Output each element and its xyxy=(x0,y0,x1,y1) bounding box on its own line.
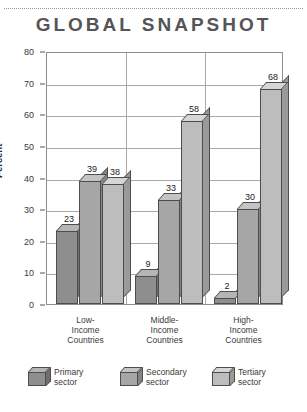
gridline xyxy=(47,148,282,149)
category-label-line: Countries xyxy=(225,335,261,345)
category-label-line: Middle- xyxy=(146,315,182,325)
legend-swatch-front xyxy=(212,372,230,386)
category-label-line: Low- xyxy=(67,315,103,325)
bar-front-face xyxy=(135,276,157,304)
legend-label-line2: sector xyxy=(238,377,266,387)
plot-area xyxy=(46,52,283,305)
category-label-line: Countries xyxy=(67,335,103,345)
bar xyxy=(135,276,157,304)
y-tick-mark xyxy=(40,210,45,211)
bar-side-face xyxy=(282,75,289,297)
y-tick-mark xyxy=(40,52,45,53)
y-tick-label: 50 xyxy=(14,142,34,152)
bar xyxy=(181,121,203,304)
y-tick-label: 0 xyxy=(14,300,34,310)
y-tick-mark xyxy=(40,178,45,179)
category-label: Low-IncomeCountries xyxy=(67,315,103,345)
legend-swatch-icon xyxy=(212,367,234,386)
legend-item: Tertiarysector xyxy=(212,364,266,387)
y-tick-label: 10 xyxy=(14,268,34,278)
bar-front-face xyxy=(237,209,259,304)
bar-side-face xyxy=(124,170,131,297)
y-tick-mark xyxy=(40,241,45,242)
legend-swatch-icon xyxy=(28,367,50,386)
category-label-line: Income xyxy=(225,325,261,335)
bar xyxy=(260,89,282,304)
y-tick-label: 30 xyxy=(14,205,34,215)
bar xyxy=(79,181,101,304)
bar xyxy=(102,184,124,304)
bar-value-label: 33 xyxy=(165,183,177,193)
bar-front-face xyxy=(214,298,236,304)
page-title: GLOBAL SNAPSHOT xyxy=(0,14,307,36)
legend-label-line2: sector xyxy=(54,377,83,387)
bar xyxy=(237,209,259,304)
category-label-line: High- xyxy=(225,315,261,325)
chart-page: GLOBAL SNAPSHOT Percent 0102030405060708… xyxy=(0,0,307,412)
y-tick-mark xyxy=(40,146,45,147)
category-label: Middle-IncomeCountries xyxy=(146,315,182,345)
bar xyxy=(158,200,180,304)
category-label-line: Income xyxy=(67,325,103,335)
top-divider xyxy=(4,8,303,9)
legend-swatch-front xyxy=(120,372,138,386)
gridline xyxy=(47,85,282,86)
gridline xyxy=(47,116,282,117)
y-tick-label: 40 xyxy=(14,174,34,184)
legend-swatch-icon xyxy=(120,367,142,386)
category-label-line: Countries xyxy=(146,335,182,345)
legend-label-line2: sector xyxy=(146,377,187,387)
legend-label: Secondarysector xyxy=(146,367,187,387)
bar-value-label: 68 xyxy=(267,72,279,82)
y-tick-mark xyxy=(40,115,45,116)
y-tick-label: 70 xyxy=(14,79,34,89)
legend-label-line1: Tertiary xyxy=(238,367,266,377)
bar-value-label: 39 xyxy=(86,164,98,174)
bar-front-face xyxy=(56,231,78,304)
category-label: High-IncomeCountries xyxy=(225,315,261,345)
bar-value-label: 38 xyxy=(109,167,121,177)
category-label-line: Income xyxy=(146,325,182,335)
legend-label-line1: Secondary xyxy=(146,367,187,377)
bar-value-label: 58 xyxy=(188,104,200,114)
bar-value-label: 23 xyxy=(63,214,75,224)
bar xyxy=(56,231,78,304)
bar-value-label: 30 xyxy=(244,192,256,202)
bar-front-face xyxy=(260,89,282,304)
legend-item: Primarysector xyxy=(28,364,83,387)
legend-label: Primarysector xyxy=(54,367,83,387)
y-tick-mark xyxy=(40,83,45,84)
bar-side-face xyxy=(203,107,210,297)
y-tick-mark xyxy=(40,305,45,306)
legend-label: Tertiarysector xyxy=(238,367,266,387)
bar-front-face xyxy=(79,181,101,304)
y-tick-label: 20 xyxy=(14,237,34,247)
y-tick-mark xyxy=(40,273,45,274)
y-tick-label: 60 xyxy=(14,110,34,120)
bar-front-face xyxy=(158,200,180,304)
bar-front-face xyxy=(102,184,124,304)
bar-front-face xyxy=(181,121,203,304)
bar xyxy=(214,298,236,304)
chart-legend: PrimarysectorSecondarysectorTertiarysect… xyxy=(0,364,307,398)
y-tick-label: 80 xyxy=(14,47,34,57)
bar-value-label: 9 xyxy=(144,259,151,269)
legend-label-line1: Primary xyxy=(54,367,83,377)
legend-swatch-front xyxy=(28,372,46,386)
figure-caption xyxy=(0,404,307,412)
legend-item: Secondarysector xyxy=(120,364,187,387)
bar-value-label: 2 xyxy=(223,281,230,291)
y-axis-label: Percent xyxy=(0,144,4,178)
